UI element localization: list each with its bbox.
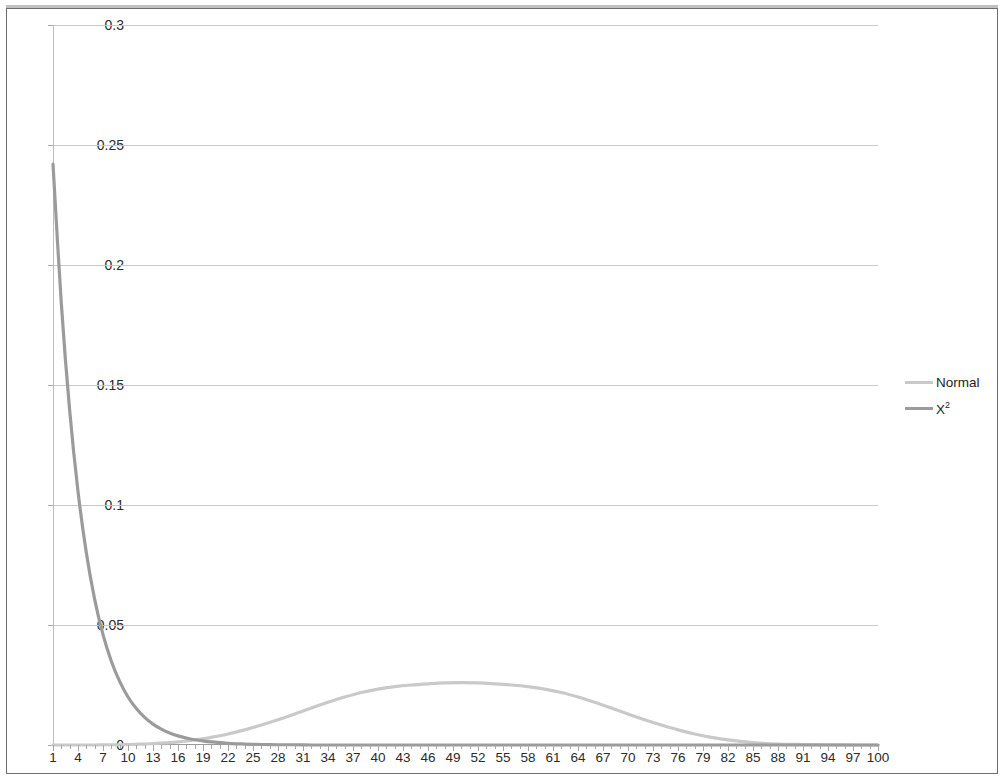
x-axis-label: 55 (495, 750, 510, 765)
series-line-x (53, 164, 878, 745)
x-axis-label: 13 (145, 750, 160, 765)
x-axis-label: 16 (170, 750, 185, 765)
chart-figure: 00.050.10.150.20.250.3 14710131619222528… (0, 0, 1008, 784)
x-axis-tick (136, 745, 137, 749)
x-axis-label: 91 (795, 750, 810, 765)
x-axis-tick (795, 745, 796, 749)
x-axis-tick (645, 745, 646, 749)
x-axis-label: 7 (99, 750, 107, 765)
x-axis-tick (220, 745, 221, 749)
x-axis-tick (595, 745, 596, 749)
plot-area (53, 25, 878, 745)
x-axis-tick (211, 745, 212, 749)
x-axis-label: 49 (445, 750, 460, 765)
x-axis-tick (461, 745, 462, 749)
x-axis-tick (111, 745, 112, 749)
x-axis-tick (786, 745, 787, 749)
x-axis-tick (620, 745, 621, 749)
x-axis-label: 82 (720, 750, 735, 765)
x-axis-label: 40 (370, 750, 385, 765)
x-axis-label: 100 (867, 750, 890, 765)
x-axis-label: 88 (770, 750, 785, 765)
x-axis-tick (761, 745, 762, 749)
x-axis-label: 94 (820, 750, 835, 765)
x-axis-tick (370, 745, 371, 749)
chart-legend: NormalX2 (899, 363, 995, 429)
legend-entry[interactable]: X2 (905, 395, 991, 421)
legend-swatch (905, 407, 933, 410)
x-axis-label: 85 (745, 750, 760, 765)
figure-border-shadow (6, 5, 998, 8)
series-curves (53, 25, 878, 745)
x-axis-tick (320, 745, 321, 749)
x-axis-tick (386, 745, 387, 749)
x-axis-tick (445, 745, 446, 749)
x-axis-tick (745, 745, 746, 749)
x-axis-label: 97 (845, 750, 860, 765)
x-axis-tick (820, 745, 821, 749)
legend-swatch (905, 381, 933, 384)
legend-entry[interactable]: Normal (905, 369, 991, 395)
x-axis-tick (436, 745, 437, 749)
x-axis-label: 10 (120, 750, 135, 765)
legend-label: X2 (936, 400, 950, 417)
x-axis-tick (720, 745, 721, 749)
x-axis-tick (395, 745, 396, 749)
x-axis-tick (611, 745, 612, 749)
x-axis-tick (295, 745, 296, 749)
x-axis-tick (711, 745, 712, 749)
x-axis-label: 64 (570, 750, 585, 765)
x-axis-labels: 1471013161922252831343740434649525558616… (53, 750, 878, 772)
x-axis-tick (870, 745, 871, 749)
x-axis-tick (561, 745, 562, 749)
x-axis-label: 1 (49, 750, 57, 765)
x-axis-tick (861, 745, 862, 749)
x-axis-label: 31 (295, 750, 310, 765)
x-axis-label: 4 (74, 750, 82, 765)
x-axis-tick (545, 745, 546, 749)
x-axis-tick (311, 745, 312, 749)
x-axis-tick (170, 745, 171, 749)
x-axis-tick (70, 745, 71, 749)
x-axis-tick (61, 745, 62, 749)
x-axis-tick (845, 745, 846, 749)
x-axis-label: 67 (595, 750, 610, 765)
legend-label: Normal (936, 375, 980, 390)
x-axis-tick (195, 745, 196, 749)
x-axis-tick (286, 745, 287, 749)
x-axis-label: 79 (695, 750, 710, 765)
x-axis-label: 34 (320, 750, 335, 765)
x-axis-label: 43 (395, 750, 410, 765)
x-axis-label: 73 (645, 750, 660, 765)
x-axis-tick (636, 745, 637, 749)
x-axis-tick (536, 745, 537, 749)
x-axis-label: 22 (220, 750, 235, 765)
x-axis-tick (736, 745, 737, 749)
x-axis-tick (511, 745, 512, 749)
x-axis-tick (486, 745, 487, 749)
x-axis-tick (695, 745, 696, 749)
x-axis-label: 28 (270, 750, 285, 765)
x-axis-label: 19 (195, 750, 210, 765)
x-axis-tick (186, 745, 187, 749)
x-axis-tick (420, 745, 421, 749)
x-axis-tick (95, 745, 96, 749)
legend-label-superscript: 2 (945, 400, 950, 410)
x-axis-tick (670, 745, 671, 749)
x-axis-label: 70 (620, 750, 635, 765)
x-axis-tick (270, 745, 271, 749)
x-axis-tick (836, 745, 837, 749)
x-axis-label: 76 (670, 750, 685, 765)
x-axis-tick (236, 745, 237, 749)
x-axis-label: 58 (520, 750, 535, 765)
x-axis-label: 37 (345, 750, 360, 765)
x-axis-label: 25 (245, 750, 260, 765)
x-axis-tick (495, 745, 496, 749)
x-axis-tick (470, 745, 471, 749)
x-axis-label: 46 (420, 750, 435, 765)
x-axis-tick (411, 745, 412, 749)
x-axis-tick (345, 745, 346, 749)
x-axis-tick (570, 745, 571, 749)
x-axis-tick (120, 745, 121, 749)
x-axis-tick (86, 745, 87, 749)
